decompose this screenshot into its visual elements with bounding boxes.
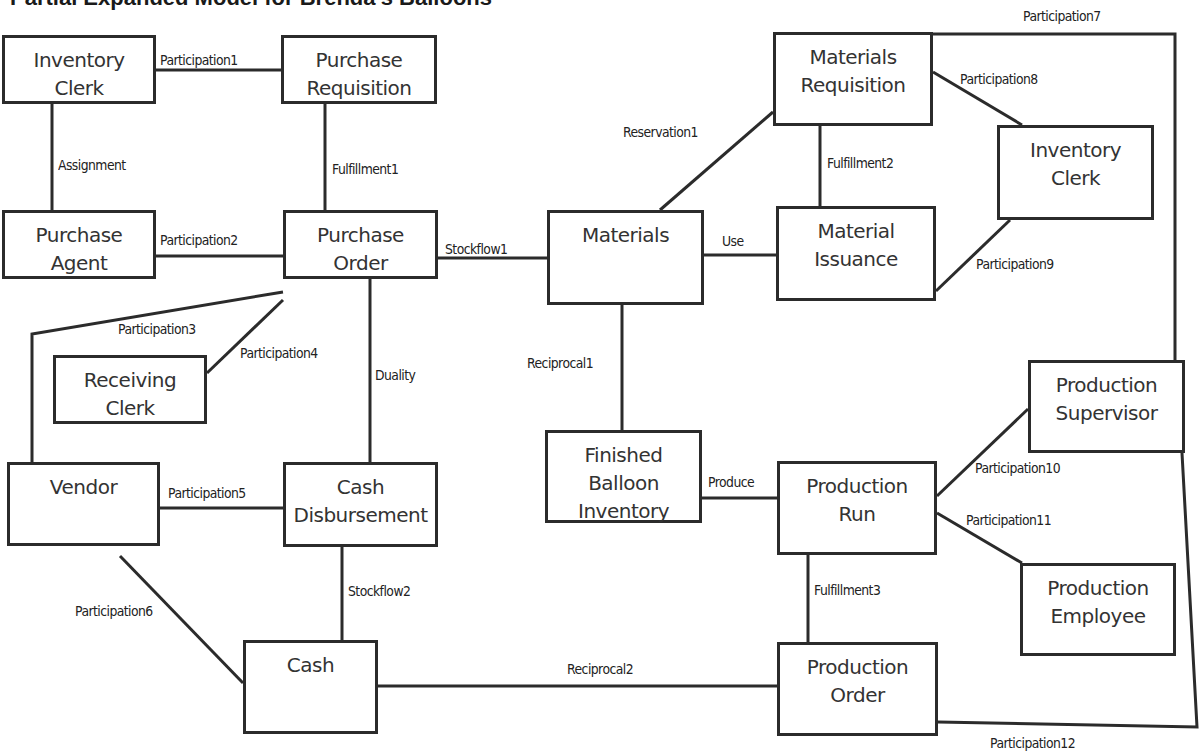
entity-name-line: Inventory [33,46,124,74]
relationship-line-participation6[interactable] [120,556,243,683]
entity-name-line: Production [1047,574,1148,602]
entity-materials[interactable]: Materials [547,210,704,305]
entity-finished-balloon-inventory[interactable]: FinishedBalloonInventory [545,430,702,523]
relationship-label-reciprocal2: Reciprocal2 [567,661,633,677]
entity-name-line: Production [1056,371,1157,399]
relationship-label-stockflow2: Stockflow2 [348,583,410,599]
entity-name-line: Balloon [588,469,659,497]
entity-name-line: Employee [1050,602,1145,630]
entity-vendor[interactable]: Vendor [7,462,160,546]
entity-cash-disbursement[interactable]: CashDisbursement [283,462,438,547]
relationship-label-participation4: Participation4 [240,345,318,361]
relationship-label-reservation1: Reservation1 [623,124,698,140]
entity-name-line: Purchase [317,221,404,249]
entity-production-run[interactable]: ProductionRun [777,461,937,555]
relationship-label-stockflow1: Stockflow1 [445,241,507,257]
relationship-label-fulfillment3: Fulfillment3 [814,582,880,598]
relationship-label-participation8: Participation8 [960,71,1038,87]
entity-name-line: Requisition [800,71,905,99]
entity-name-line: Clerk [54,74,103,102]
relationship-label-participation3: Participation3 [118,321,196,337]
entity-inventory-clerk-1[interactable]: InventoryClerk [2,35,156,104]
entity-name-line: Inventory [578,497,669,525]
entity-name-line: Materials [809,43,896,71]
entity-name-line: Material [817,217,894,245]
entity-material-issuance[interactable]: MaterialIssuance [776,206,936,301]
relationship-label-participation7: Participation7 [1023,8,1101,24]
relationship-label-participation1: Participation1 [160,52,238,68]
entity-name-line: Cash [287,651,334,679]
entity-name-line: Order [830,681,884,709]
relationship-label-participation9: Participation9 [976,256,1054,272]
entity-name-line: Purchase [316,46,403,74]
entity-name-line: Order [333,249,387,277]
entity-name-line: Production [806,472,907,500]
relationship-label-participation12: Participation12 [990,735,1075,751]
entity-production-employee[interactable]: ProductionEmployee [1020,563,1176,656]
entity-name-line: Requisition [306,74,411,102]
entity-cash[interactable]: Cash [243,640,378,734]
relationship-label-produce: Produce [708,474,754,490]
relationship-line-participation4[interactable] [207,300,283,373]
entity-production-supervisor[interactable]: ProductionSupervisor [1028,360,1185,453]
entity-name-line: Purchase [36,221,123,249]
entity-name-line: Run [839,500,876,528]
relationship-label-use: Use [722,233,744,249]
entity-materials-requisition[interactable]: MaterialsRequisition [773,32,933,126]
relationship-label-participation11: Participation11 [966,512,1051,528]
entity-name-line: Issuance [814,245,898,273]
entity-name-line: Clerk [105,394,154,422]
relationship-label-participation5: Participation5 [168,485,246,501]
relationship-label-participation10: Participation10 [975,460,1060,476]
entity-name-line: Inventory [1030,136,1121,164]
relationship-label-fulfillment1: Fulfillment1 [332,161,398,177]
relationship-label-reciprocal1: Reciprocal1 [527,355,593,371]
entity-name-line: Disbursement [294,501,428,529]
entity-name-line: Vendor [50,473,117,501]
entity-receiving-clerk[interactable]: ReceivingClerk [53,355,207,424]
relationship-label-participation6: Participation6 [75,603,153,619]
relationship-label-participation2: Participation2 [160,232,238,248]
entity-name-line: Agent [51,249,108,277]
entity-name-line: Production [807,653,908,681]
relationship-label-fulfillment2: Fulfillment2 [827,155,893,171]
entity-name-line: Clerk [1051,164,1100,192]
entity-name-line: Receiving [84,366,176,394]
entity-name-line: Cash [337,473,384,501]
entity-purchase-requisition[interactable]: PurchaseRequisition [281,35,437,104]
entity-production-order[interactable]: ProductionOrder [777,642,938,736]
entity-inventory-clerk-2[interactable]: InventoryClerk [997,125,1154,220]
relationship-label-duality: Duality [375,367,415,383]
relationship-label-assignment: Assignment [58,157,126,173]
relationship-line-participation10[interactable] [937,409,1028,496]
entity-name-line: Finished [585,441,663,469]
entity-name-line: Supervisor [1056,399,1158,427]
entity-name-line: Materials [582,221,669,249]
entity-purchase-agent[interactable]: PurchaseAgent [2,210,156,279]
entity-purchase-order[interactable]: PurchaseOrder [283,210,438,279]
